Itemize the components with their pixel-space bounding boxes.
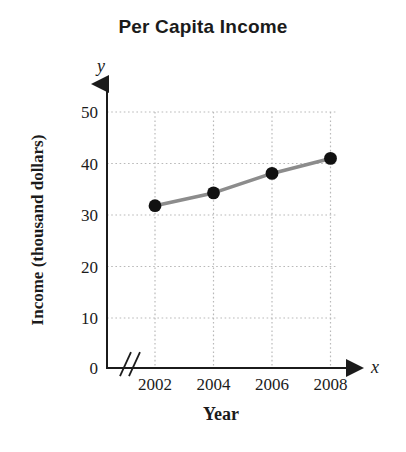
y-tick-label-20: 20	[58, 258, 98, 278]
horizontal-gridlines	[107, 112, 338, 318]
chart-figure: Per Capita Income Income (thousand dolla…	[0, 0, 406, 452]
data-point-2004	[207, 187, 220, 200]
y-tick-label-50: 50	[58, 103, 98, 123]
data-line	[155, 158, 331, 205]
y-tick-label-0: 0	[58, 359, 98, 379]
x-axis-break-icon	[120, 352, 140, 376]
x-tick-label-2004: 2004	[183, 375, 245, 395]
vertical-gridlines	[155, 112, 331, 367]
y-tick-label-10: 10	[58, 309, 98, 329]
data-point-2002	[149, 199, 162, 212]
x-tick-label-2002: 2002	[124, 375, 186, 395]
axis-lines	[106, 84, 362, 368]
y-tick-label-30: 30	[58, 206, 98, 226]
x-tick-label-2008: 2008	[300, 375, 362, 395]
x-tick-label-2006: 2006	[241, 375, 303, 395]
data-point-2008	[324, 152, 337, 165]
data-point-2006	[266, 167, 279, 180]
y-tick-label-40: 40	[58, 155, 98, 175]
